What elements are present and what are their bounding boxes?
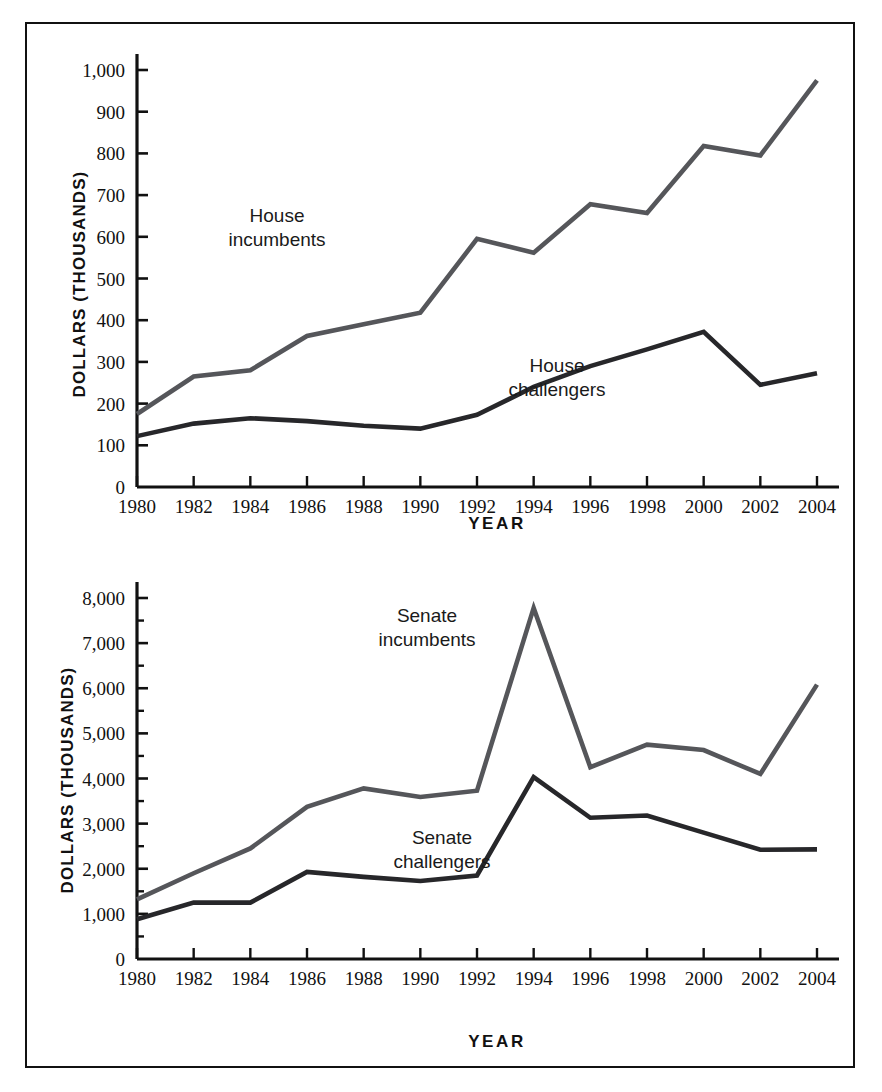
senate-label-challengers-line2: challengers (393, 851, 490, 872)
senate-xtick-label: 1980 (118, 968, 156, 989)
house-ylabel: DOLLARS (THOUSANDS) (70, 171, 89, 398)
house-xtick-label: 1986 (288, 496, 326, 517)
senate-xtick-label: 1984 (231, 968, 270, 989)
senate-xtick-label: 1988 (345, 968, 383, 989)
senate-ytick-label: 6,000 (82, 678, 125, 699)
senate-ytick-label: 3,000 (82, 814, 125, 835)
house-xlabel: YEAR (468, 514, 526, 533)
house-label-incumbents-line2: incumbents (228, 229, 325, 250)
house-xtick-label: 1988 (345, 496, 383, 517)
senate-ylabel: DOLLARS (THOUSANDS) (58, 667, 77, 894)
senate-ytick-label: 8,000 (82, 588, 125, 609)
senate-xtick-label: 1986 (288, 968, 326, 989)
house-ytick-label: 300 (97, 352, 126, 373)
senate-ytick-label: 0 (116, 949, 126, 970)
senate-y-axis-title: DOLLARS (THOUSANDS) (58, 667, 77, 894)
house-xtick-label: 2002 (741, 496, 779, 517)
senate-label-incumbents-line2: incumbents (378, 629, 475, 650)
senate-ytick-label: 1,000 (82, 904, 125, 925)
house-label-challengers-line2: challengers (508, 379, 605, 400)
house-ytick-label: 100 (97, 435, 126, 456)
senate-plot-area: 01,0002,0003,0004,0005,0006,0007,0008,00… (82, 582, 839, 989)
senate-label-incumbents: Senate (397, 605, 457, 626)
house-chart-svg: DOLLARS (THOUSANDS) 01002003004005006007… (27, 24, 857, 544)
house-xtick-label: 1982 (175, 496, 213, 517)
house-y-axis-title: DOLLARS (THOUSANDS) (70, 171, 89, 398)
house-ytick-label: 600 (97, 227, 126, 248)
senate-xtick-label: 1982 (175, 968, 213, 989)
house-ytick-label: 700 (97, 185, 126, 206)
house-ytick-label: 200 (97, 394, 126, 415)
chart-page: { "figure": { "background_color": "#ffff… (0, 0, 882, 1092)
house-xtick-label: 1980 (118, 496, 156, 517)
house-chart: DOLLARS (THOUSANDS) 01002003004005006007… (27, 24, 857, 544)
senate-xtick-label: 1996 (571, 968, 609, 989)
senate-label-challengers: Senate (412, 827, 472, 848)
senate-xtick-label: 1992 (458, 968, 496, 989)
house-label-challengers: House (530, 355, 585, 376)
senate-series-challengers (137, 777, 817, 919)
senate-chart: DOLLARS (THOUSANDS) 01,0002,0003,0004,00… (27, 544, 857, 1068)
house-xtick-label: 1984 (231, 496, 270, 517)
senate-ytick-label: 4,000 (82, 769, 125, 790)
senate-xtick-label: 2000 (685, 968, 723, 989)
house-xtick-label: 1998 (628, 496, 666, 517)
senate-xlabel: YEAR (468, 1032, 526, 1051)
house-ytick-label: 0 (116, 477, 126, 498)
senate-ytick-label: 7,000 (82, 633, 125, 654)
senate-ytick-label: 5,000 (82, 723, 125, 744)
house-plot-area: 01002003004005006007008009001,0001980198… (82, 54, 839, 517)
senate-xtick-label: 2002 (741, 968, 779, 989)
figure-frame: DOLLARS (THOUSANDS) 01002003004005006007… (25, 22, 855, 1068)
house-xtick-label: 2004 (798, 496, 837, 517)
senate-chart-svg: DOLLARS (THOUSANDS) 01,0002,0003,0004,00… (27, 544, 857, 1068)
house-xtick-label: 1990 (401, 496, 439, 517)
senate-xtick-label: 1998 (628, 968, 666, 989)
house-ytick-label: 900 (97, 102, 126, 123)
house-ytick-label: 800 (97, 143, 126, 164)
house-series-challengers (137, 332, 817, 436)
senate-xtick-label: 2004 (798, 968, 837, 989)
house-ytick-label: 500 (97, 269, 126, 290)
house-ytick-label: 1,000 (82, 60, 125, 81)
house-label-incumbents: House (250, 205, 305, 226)
senate-ytick-label: 2,000 (82, 859, 125, 880)
senate-xtick-label: 1994 (515, 968, 554, 989)
house-ytick-label: 400 (97, 310, 126, 331)
house-xtick-label: 1996 (571, 496, 609, 517)
senate-xtick-label: 1990 (401, 968, 439, 989)
house-xtick-label: 2000 (685, 496, 723, 517)
